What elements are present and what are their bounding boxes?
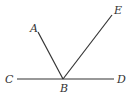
label-c: C [5, 73, 14, 86]
label-d: D [116, 73, 126, 86]
ray-be [63, 15, 112, 79]
label-b: B [59, 82, 68, 95]
label-a: A [29, 22, 38, 35]
geometry-diagram: A B C D E [0, 0, 130, 109]
label-e: E [113, 4, 122, 17]
ray-ba [38, 32, 63, 79]
